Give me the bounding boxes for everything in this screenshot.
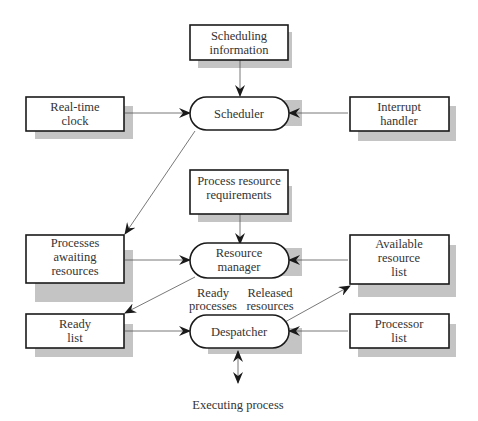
label: information: [209, 43, 269, 57]
label: Ready: [59, 317, 92, 331]
node-processor-list: Processor list: [350, 314, 449, 348]
edge-label-ready-processes: Ready processes: [189, 286, 237, 313]
label: clock: [61, 114, 89, 128]
node-ready-list: Ready list: [26, 314, 124, 348]
label: Interrupt: [377, 100, 421, 114]
edge-resmgr-ready: [125, 277, 195, 313]
label: list: [391, 265, 407, 279]
node-scheduler: Scheduler: [190, 97, 289, 130]
edge-label-released-resources: Released resources: [246, 286, 293, 313]
label: Process resource: [197, 174, 281, 188]
label: Scheduler: [214, 107, 265, 121]
node-available-resource-list: Available resource list: [350, 235, 449, 284]
label: Available: [375, 237, 423, 251]
node-despatcher: Despatcher: [190, 315, 289, 348]
node-scheduling-information: Scheduling information: [190, 25, 288, 60]
label: Resource: [216, 246, 263, 260]
label: resource: [378, 251, 421, 265]
label: Released: [247, 286, 293, 300]
node-process-resource-requirements: Process resource requirements: [190, 170, 288, 214]
node-executing-process: Executing process: [192, 398, 283, 412]
node-resource-manager: Resource manager: [190, 243, 289, 278]
edge-scheduler-awaiting: [125, 131, 195, 234]
label: Despatcher: [211, 325, 268, 339]
edge-despatcher-available: [285, 286, 350, 322]
label: requirements: [206, 188, 271, 202]
label: Processes: [51, 236, 100, 250]
label: processes: [189, 299, 237, 313]
label: handler: [380, 114, 418, 128]
node-realtime-clock: Real-time clock: [26, 97, 124, 131]
label: Processor: [375, 317, 424, 331]
label: manager: [217, 260, 261, 274]
label: list: [391, 331, 407, 345]
label: awaiting: [53, 250, 97, 264]
label: Scheduling: [211, 29, 268, 43]
node-interrupt-handler: Interrupt handler: [350, 97, 449, 131]
scheduler-diagram: Scheduling information Scheduler Real-ti…: [0, 0, 478, 421]
label: Ready: [197, 286, 230, 300]
node-processes-awaiting-resources: Processes awaiting resources: [26, 235, 124, 283]
label: Real-time: [50, 100, 100, 114]
label: list: [67, 331, 83, 345]
label: resources: [51, 264, 98, 278]
label: resources: [246, 299, 293, 313]
